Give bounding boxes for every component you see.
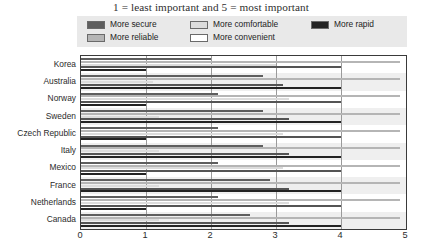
bar	[81, 190, 341, 192]
bar	[81, 145, 263, 147]
bar	[81, 84, 283, 86]
legend-swatch-more-reliable	[87, 34, 105, 42]
y-axis-label: Mexico	[0, 162, 76, 172]
bar	[81, 162, 218, 164]
bar	[81, 182, 400, 184]
bar	[81, 179, 270, 181]
legend-swatch-more-rapid	[311, 21, 329, 29]
y-axis-label: Sweden	[0, 111, 76, 121]
bar	[81, 138, 146, 140]
plot-area	[80, 55, 407, 230]
bar	[81, 58, 211, 60]
legend-label-more-comfortable: More comfortable	[213, 20, 278, 29]
bar	[81, 75, 263, 77]
chart-title: 1 = least important and 5 = most importa…	[0, 1, 422, 13]
legend-swatch-more-secure	[87, 21, 105, 29]
legend-entry-more-comfortable: More comfortable	[190, 20, 278, 29]
bar	[81, 113, 400, 115]
legend-entry-more-rapid: More rapid	[311, 20, 374, 29]
legend-label-more-convenient: More convenient	[213, 33, 275, 42]
bar	[81, 87, 341, 89]
bar	[81, 66, 341, 68]
plot-inner	[81, 56, 406, 229]
legend-entry-more-convenient: More convenient	[190, 33, 275, 42]
legend-entry-more-reliable: More reliable	[87, 33, 158, 42]
bar	[81, 116, 159, 118]
legend-swatch-more-convenient	[190, 34, 208, 42]
x-axis-tick: 5	[402, 230, 407, 240]
bar	[81, 188, 289, 190]
y-axis-label: Australia	[0, 76, 76, 86]
legend-label-more-rapid: More rapid	[334, 20, 374, 29]
x-axis-tick: 1	[142, 230, 147, 240]
bar	[81, 156, 341, 158]
bar	[81, 127, 218, 129]
bar	[81, 104, 146, 106]
bar	[81, 170, 341, 172]
x-axis-tick: 0	[77, 230, 82, 240]
y-axis-label: Canada	[0, 214, 76, 224]
bar	[81, 121, 341, 123]
bar	[81, 165, 400, 167]
y-axis-label: France	[0, 180, 76, 190]
bar	[81, 153, 289, 155]
gridline	[341, 56, 342, 229]
legend-swatch-more-comfortable	[190, 21, 208, 29]
legend-entry-more-secure: More secure	[87, 20, 157, 29]
chart-container: 1 = least important and 5 = most importa…	[0, 0, 422, 248]
x-axis-tick: 2	[207, 230, 212, 240]
bar	[81, 136, 341, 138]
y-axis-label: Czech Republic	[0, 128, 76, 138]
y-axis-label: Italy	[0, 145, 76, 155]
bar	[81, 147, 400, 149]
bar	[81, 196, 218, 198]
x-axis-tick: 4	[337, 230, 342, 240]
bar	[81, 130, 400, 132]
bar	[81, 98, 289, 100]
bar	[81, 81, 153, 83]
bar	[81, 222, 289, 224]
bar	[81, 133, 283, 135]
bar	[81, 225, 341, 227]
legend-label-more-secure: More secure	[110, 20, 157, 29]
bar	[81, 78, 400, 80]
chart-legend: More secure More reliable More comfortab…	[77, 16, 407, 47]
bar	[81, 185, 159, 187]
bar	[81, 202, 289, 204]
bar	[81, 199, 400, 201]
x-axis-tick: 3	[272, 230, 277, 240]
bar	[81, 167, 283, 169]
bar	[81, 217, 400, 219]
bar	[81, 118, 289, 120]
y-axis-label: Norway	[0, 93, 76, 103]
bar	[81, 205, 341, 207]
bar	[81, 173, 146, 175]
y-axis-labels: KoreaAustraliaNorwaySwedenCzech Republic…	[0, 55, 76, 228]
bar	[81, 101, 341, 103]
bar	[81, 150, 159, 152]
bar	[81, 64, 276, 66]
bar	[81, 93, 218, 95]
legend-label-more-reliable: More reliable	[110, 33, 158, 42]
bar	[81, 208, 146, 210]
y-axis-label: Korea	[0, 59, 76, 69]
x-axis-ticks: 012345	[80, 230, 405, 246]
bar	[81, 69, 146, 71]
bar	[81, 110, 263, 112]
bar	[81, 61, 400, 63]
bar	[81, 95, 400, 97]
y-axis-label: Netherlands	[0, 197, 76, 207]
bar	[81, 219, 159, 221]
bar	[81, 214, 250, 216]
